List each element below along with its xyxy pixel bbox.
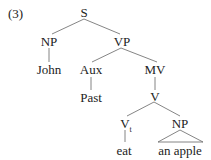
leaf-an-apple: an apple [158,144,202,157]
leaf-john: John [37,63,62,76]
node-vt-subscript: t [130,125,132,134]
leaf-eat: eat [116,144,131,157]
node-vp: VP [114,35,131,48]
node-np-subject: NP [41,35,58,48]
node-np-object: NP [172,117,189,130]
node-mv: MV [145,63,166,76]
example-number: (3) [8,7,23,20]
node-aux: Aux [80,63,102,76]
node-s: S [80,6,87,19]
tree-branches [0,0,211,160]
node-v: V [150,90,159,103]
node-vt: Vt [120,117,132,136]
leaf-past: Past [80,91,102,104]
node-vt-base: V [120,116,129,131]
